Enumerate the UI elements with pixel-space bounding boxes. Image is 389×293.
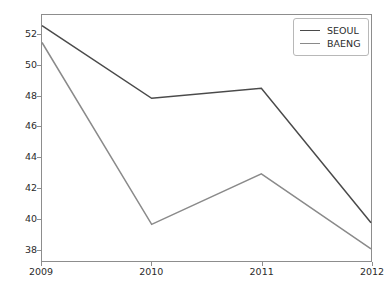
y-tick-label: 46 (25, 122, 37, 132)
legend-line-icon (300, 43, 320, 44)
chart-figure: 3840424446485052 2009201020112012 SEOULB… (0, 0, 389, 293)
legend-label: BAENG (327, 39, 361, 49)
legend-item-seoul: SEOUL (300, 24, 361, 37)
legend-item-baeng: BAENG (300, 37, 361, 50)
x-tick-mark (41, 262, 42, 266)
x-tick-mark (151, 262, 152, 266)
legend-line-icon (300, 30, 320, 31)
y-tick-label: 48 (25, 91, 37, 101)
chart-legend: SEOULBAENG (293, 18, 369, 56)
x-tick-label: 2012 (360, 267, 384, 277)
y-tick-label: 40 (25, 214, 37, 224)
x-tick-label: 2010 (139, 267, 163, 277)
y-tick-label: 44 (25, 153, 37, 163)
x-tick-mark (372, 262, 373, 266)
y-tick-label: 38 (25, 245, 37, 255)
y-tick-label: 52 (25, 29, 37, 39)
y-tick-label: 50 (25, 60, 37, 70)
x-tick-mark (262, 262, 263, 266)
x-tick-label: 2009 (29, 267, 53, 277)
legend-label: SEOUL (327, 26, 359, 36)
series-line-baeng (42, 43, 371, 249)
y-tick-label: 42 (25, 183, 37, 193)
x-tick-label: 2011 (250, 267, 274, 277)
